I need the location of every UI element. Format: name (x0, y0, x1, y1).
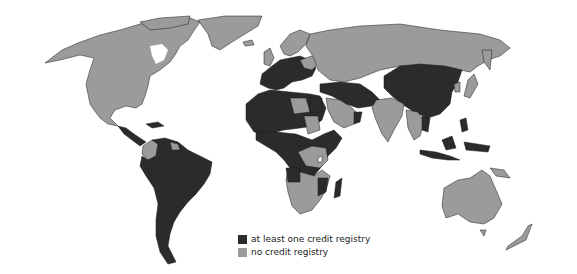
region-north-america (45, 18, 200, 126)
region-egypt (310, 98, 322, 112)
region-scandinavia (280, 30, 310, 56)
region-mozambique (318, 178, 328, 196)
region-png (490, 168, 510, 178)
region-new-zealand (506, 224, 532, 250)
region-vietnam (422, 116, 430, 132)
region-indonesia (420, 150, 460, 160)
region-central-america (118, 126, 146, 146)
legend: at least one credit registry no credit r… (238, 233, 370, 259)
region-korea (454, 82, 460, 92)
region-australia (442, 170, 502, 224)
region-uk (264, 48, 274, 66)
legend-swatch-dark (238, 235, 247, 244)
legend-label: at least one credit registry (251, 234, 370, 244)
legend-item-registry: at least one credit registry (238, 233, 370, 245)
region-madagascar (334, 178, 342, 198)
legend-label: no credit registry (251, 247, 328, 257)
region-philippines (460, 118, 468, 132)
region-tasmania (480, 230, 486, 236)
region-sulawesi-png (464, 142, 490, 152)
region-oman (354, 112, 362, 124)
region-india (372, 98, 404, 142)
region-iceland (243, 40, 254, 46)
legend-swatch-gray (238, 248, 247, 257)
region-borneo (442, 136, 456, 150)
region-japan (464, 74, 478, 98)
region-caribbean (146, 122, 164, 128)
region-angola (286, 168, 300, 182)
region-kamchatka (482, 50, 492, 70)
legend-item-no-registry: no credit registry (238, 246, 370, 258)
region-sudan (304, 116, 320, 134)
